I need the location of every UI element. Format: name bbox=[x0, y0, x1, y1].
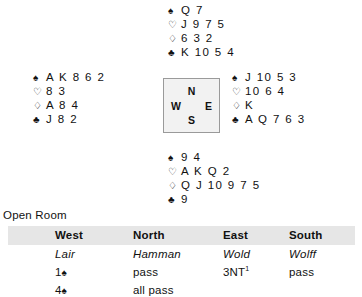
east-diamonds-row: ♢ K bbox=[232, 98, 306, 112]
west-hearts-cards: 8 3 bbox=[46, 84, 66, 98]
heart-icon: ♡ bbox=[232, 85, 245, 99]
room-label: Open Room bbox=[0, 208, 362, 223]
bid-north-1: pass bbox=[133, 263, 223, 281]
auction-bid-spacer bbox=[8, 281, 55, 297]
east-spades-row: ♠ J 10 5 3 bbox=[232, 70, 306, 84]
west-spades-cards: A K 8 6 2 bbox=[46, 70, 105, 84]
east-diamonds-cards: K bbox=[245, 98, 254, 112]
bid-west-2: 4♠ bbox=[55, 281, 133, 297]
hand-east: ♠ J 10 5 3 ♡ 10 6 4 ♢ K ♣ A Q 7 6 3 bbox=[232, 70, 306, 126]
hand-south: ♠ 9 4 ♡ A K Q 2 ♢ Q J 10 9 7 5 ♣ 9 bbox=[168, 150, 260, 206]
club-icon: ♣ bbox=[168, 46, 181, 60]
west-clubs-row: ♣ J 8 2 bbox=[33, 112, 105, 126]
club-icon: ♣ bbox=[232, 113, 245, 127]
heart-icon: ♡ bbox=[168, 165, 181, 179]
auction-header-south: South bbox=[289, 226, 355, 245]
auction-table: West North East South Lair Hamman Wold W… bbox=[8, 226, 355, 297]
south-spades-cards: 9 4 bbox=[181, 150, 201, 164]
compass-west-label: W bbox=[171, 100, 181, 111]
bid-east-1-call: 3NT bbox=[223, 266, 245, 278]
compass-south-label: S bbox=[188, 115, 195, 126]
hand-north: ♠ Q 7 ♡ J 9 7 5 ♢ 6 3 2 ♣ K 10 5 4 bbox=[168, 3, 235, 59]
auction-bid-row: 4♠ all pass bbox=[8, 281, 355, 297]
auction-bid-spacer bbox=[8, 263, 55, 281]
compass-box: N W E S bbox=[163, 78, 220, 133]
diamond-icon: ♢ bbox=[168, 32, 181, 46]
auction-header-row: West North East South bbox=[8, 226, 355, 245]
north-hearts-cards: J 9 7 5 bbox=[181, 17, 225, 31]
west-diamonds-row: ♢ A 8 4 bbox=[33, 98, 105, 112]
spade-icon: ♠ bbox=[62, 267, 68, 278]
west-spades-row: ♠ A K 8 6 2 bbox=[33, 70, 105, 84]
south-clubs-row: ♣ 9 bbox=[168, 192, 260, 206]
north-diamonds-row: ♢ 6 3 2 bbox=[168, 31, 235, 45]
bid-west-1: 1♠ bbox=[55, 263, 133, 281]
north-spades-cards: Q 7 bbox=[181, 3, 204, 17]
south-clubs-cards: 9 bbox=[181, 192, 189, 206]
bid-south-2 bbox=[289, 281, 355, 297]
hand-west: ♠ A K 8 6 2 ♡ 8 3 ♢ A 8 4 ♣ J 8 2 bbox=[33, 70, 105, 126]
west-diamonds-cards: A 8 4 bbox=[46, 98, 79, 112]
player-north: Hamman bbox=[133, 245, 223, 263]
auction-header-east: East bbox=[223, 226, 289, 245]
spade-icon: ♠ bbox=[62, 285, 68, 296]
south-hearts-row: ♡ A K Q 2 bbox=[168, 164, 260, 178]
bid-north-2: all pass bbox=[133, 281, 223, 297]
bridge-deal-diagram: ♠ Q 7 ♡ J 9 7 5 ♢ 6 3 2 ♣ K 10 5 4 ♠ A K… bbox=[0, 0, 362, 210]
east-spades-cards: J 10 5 3 bbox=[245, 70, 297, 84]
west-clubs-cards: J 8 2 bbox=[46, 112, 78, 126]
auction-header-spacer bbox=[8, 226, 55, 245]
player-west: Lair bbox=[55, 245, 133, 263]
north-hearts-row: ♡ J 9 7 5 bbox=[168, 17, 235, 31]
east-clubs-row: ♣ A Q 7 6 3 bbox=[232, 112, 306, 126]
bid-west-2-level: 4 bbox=[55, 284, 62, 296]
spade-icon: ♠ bbox=[33, 71, 46, 85]
heart-icon: ♡ bbox=[33, 85, 46, 99]
east-hearts-row: ♡ 10 6 4 bbox=[232, 84, 306, 98]
auction-players-row: Lair Hamman Wold Wolff bbox=[8, 245, 355, 263]
spade-icon: ♠ bbox=[232, 71, 245, 85]
spade-icon: ♠ bbox=[168, 151, 181, 165]
compass-east-label: E bbox=[205, 100, 212, 111]
spade-icon: ♠ bbox=[168, 4, 181, 18]
bid-south-1: pass bbox=[289, 263, 355, 281]
north-spades-row: ♠ Q 7 bbox=[168, 3, 235, 17]
diamond-icon: ♢ bbox=[33, 99, 46, 113]
diamond-icon: ♢ bbox=[168, 179, 181, 193]
east-hearts-cards: 10 6 4 bbox=[245, 84, 285, 98]
north-diamonds-cards: 6 3 2 bbox=[181, 31, 214, 45]
south-hearts-cards: A K Q 2 bbox=[181, 164, 230, 178]
bid-east-1-footnote: 1 bbox=[245, 265, 249, 272]
south-diamonds-row: ♢ Q J 10 9 7 5 bbox=[168, 178, 260, 192]
compass-north-label: N bbox=[188, 86, 196, 97]
west-hearts-row: ♡ 8 3 bbox=[33, 84, 105, 98]
auction-header-west: West bbox=[55, 226, 133, 245]
east-clubs-cards: A Q 7 6 3 bbox=[245, 112, 306, 126]
heart-icon: ♡ bbox=[168, 18, 181, 32]
south-diamonds-cards: Q J 10 9 7 5 bbox=[181, 178, 260, 192]
bid-east-1: 3NT1 bbox=[223, 263, 289, 281]
south-spades-row: ♠ 9 4 bbox=[168, 150, 260, 164]
north-clubs-row: ♣ K 10 5 4 bbox=[168, 45, 235, 59]
auction-section: Open Room West North East South Lair Ham… bbox=[0, 208, 362, 297]
club-icon: ♣ bbox=[33, 113, 46, 127]
diamond-icon: ♢ bbox=[232, 99, 245, 113]
player-south: Wolff bbox=[289, 245, 355, 263]
club-icon: ♣ bbox=[168, 193, 181, 207]
auction-players-spacer bbox=[8, 245, 55, 263]
bid-west-1-level: 1 bbox=[55, 266, 62, 278]
auction-bid-row: 1♠ pass 3NT1 pass bbox=[8, 263, 355, 281]
auction-header-north: North bbox=[133, 226, 223, 245]
north-clubs-cards: K 10 5 4 bbox=[181, 45, 235, 59]
bid-east-2 bbox=[223, 281, 289, 297]
player-east: Wold bbox=[223, 245, 289, 263]
